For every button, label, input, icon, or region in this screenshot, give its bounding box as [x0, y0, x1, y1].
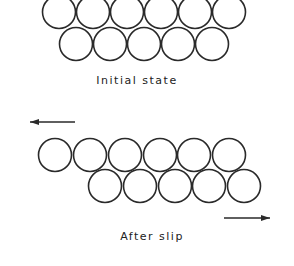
- after-bottom-row-atom-circle: [228, 170, 261, 203]
- slip-diagram: Initial state After slip: [0, 0, 294, 266]
- after-slip-atoms: [39, 139, 261, 203]
- initial-state-atoms: [43, 0, 246, 61]
- after-bottom-row-atom-circle: [124, 170, 157, 203]
- initial-top-row-atom-circle: [111, 0, 144, 29]
- after-bottom-row-atom-circle: [193, 170, 226, 203]
- initial-top-row-atom-circle: [43, 0, 76, 29]
- after-top-row-atom-circle: [109, 139, 142, 172]
- initial-bottom-row-atom-circle: [128, 28, 161, 61]
- initial-bottom-row-atom-circle: [162, 28, 195, 61]
- after-slip-label: After slip: [120, 230, 184, 243]
- initial-bottom-row-atom-circle: [60, 28, 93, 61]
- after-top-row-atom-circle: [178, 139, 211, 172]
- initial-top-row-atom-circle: [213, 0, 246, 29]
- arrow-left-icon: [30, 119, 75, 125]
- initial-bottom-row-atom-circle: [94, 28, 127, 61]
- arrow-right-icon: [224, 215, 270, 221]
- after-top-row-atom-circle: [74, 139, 107, 172]
- initial-top-row-atom-circle: [145, 0, 178, 29]
- initial-top-row-atom-circle: [77, 0, 110, 29]
- initial-top-row-atom-circle: [179, 0, 212, 29]
- initial-state-label: Initial state: [96, 74, 177, 87]
- after-top-row-atom-circle: [39, 139, 72, 172]
- after-bottom-row-atom-circle: [159, 170, 192, 203]
- initial-bottom-row-atom-circle: [196, 28, 229, 61]
- after-top-row-atom-circle: [144, 139, 177, 172]
- after-bottom-row-atom-circle: [89, 170, 122, 203]
- after-top-row-atom-circle: [213, 139, 246, 172]
